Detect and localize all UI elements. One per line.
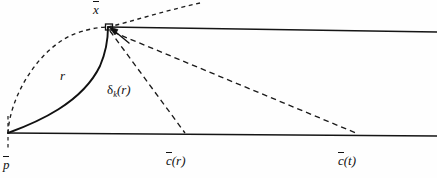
- label-p-bar-text: p: [3, 158, 10, 171]
- figure-container: x p r δk(r) c(r) c(t): [0, 0, 437, 178]
- label-c-bar-t-base: c: [338, 154, 344, 167]
- label-c-bar-r-arg: (r): [172, 153, 186, 168]
- label-c-bar-r: c(r): [166, 154, 186, 167]
- label-delta-k-r: δk(r): [107, 83, 131, 98]
- dashed-segment-to-c-bar-t: [113, 32, 356, 133]
- label-x-bar: x: [93, 3, 99, 16]
- label-p-bar: p: [3, 158, 10, 171]
- label-c-bar-t: c(t): [338, 154, 356, 167]
- diagram-canvas: [0, 0, 437, 178]
- solid-geodesic-curve: [8, 27, 108, 133]
- label-x-bar-text: x: [93, 3, 99, 16]
- label-c-bar-r-base: c: [166, 154, 172, 167]
- dotted-arc-upper: [8, 27, 108, 133]
- label-r: r: [60, 69, 65, 82]
- delta-argument: (r): [117, 82, 131, 97]
- label-c-bar-t-arg: (t): [344, 153, 356, 168]
- top-horizontal-line: [108, 27, 437, 32]
- bottom-horizontal-line: [8, 133, 437, 136]
- dotted-arc-extension: [108, 3, 200, 27]
- label-r-text: r: [60, 68, 65, 83]
